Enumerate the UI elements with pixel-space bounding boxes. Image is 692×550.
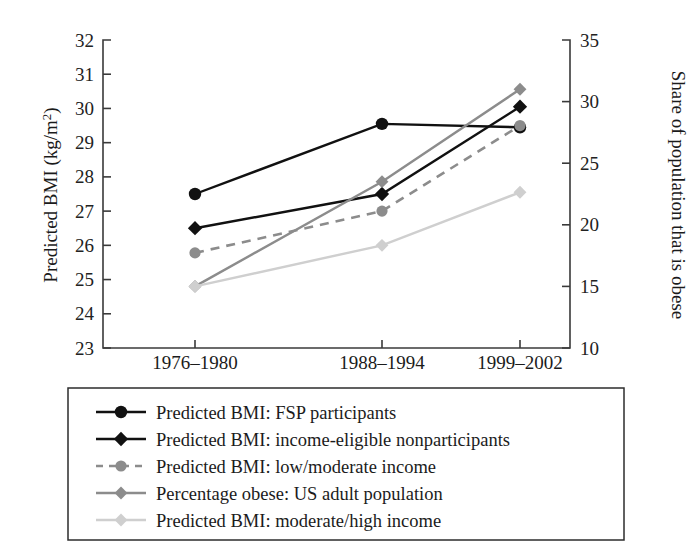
legend-marker-diamond <box>115 514 128 527</box>
legend-label: Predicted BMI: income-eligible nonpartic… <box>156 430 510 450</box>
left-axis-tick-label: 30 <box>75 98 94 119</box>
legend-label: Percentage obese: US adult population <box>156 484 443 504</box>
series-line-4 <box>195 192 520 286</box>
series-line-3 <box>195 89 520 286</box>
series-line-0 <box>195 124 520 194</box>
data-point-circle <box>514 120 525 131</box>
legend-label: Predicted BMI: low/moderate income <box>156 457 436 477</box>
left-axis-title: Predicted BMI (kg/m2) <box>39 107 62 282</box>
right-axis-tick-label: 20 <box>580 214 599 235</box>
left-axis-tick-label: 28 <box>75 166 94 187</box>
data-point-diamond <box>189 280 202 293</box>
data-point-diamond <box>513 100 527 114</box>
left-axis-tick-label: 31 <box>75 64 94 85</box>
data-point-diamond <box>188 221 202 235</box>
left-axis-line <box>103 40 111 348</box>
right-axis-tick-label: 35 <box>580 30 599 51</box>
left-axis-tick-label: 23 <box>75 338 94 359</box>
legend-marker-circle <box>115 460 126 471</box>
right-axis-tick-label: 10 <box>580 338 599 359</box>
data-point-diamond <box>514 186 527 199</box>
right-axis-line <box>562 40 570 348</box>
left-axis-tick-label: 25 <box>75 269 94 290</box>
data-point-diamond <box>376 239 389 252</box>
data-point-circle <box>189 188 201 200</box>
series-line-2 <box>195 126 520 253</box>
left-axis-tick-label: 26 <box>75 235 94 256</box>
chart-figure: 232425262728293031321015202530351976–198… <box>0 0 692 550</box>
right-axis-tick-label: 15 <box>580 276 599 297</box>
left-axis-tick-label: 29 <box>75 132 94 153</box>
right-axis-tick-label: 30 <box>580 91 599 112</box>
x-axis-category-label: 1988–1994 <box>339 352 425 373</box>
right-axis-title: Share of population that is obese <box>668 71 689 320</box>
left-axis-tick-label: 32 <box>75 30 94 51</box>
legend-marker-circle <box>115 406 127 418</box>
left-axis-tick-label: 27 <box>75 201 94 222</box>
bmi-obesity-line-chart: 232425262728293031321015202530351976–198… <box>0 0 692 550</box>
data-point-circle <box>376 206 387 217</box>
data-point-circle <box>376 118 388 130</box>
right-axis-tick-label: 25 <box>580 153 599 174</box>
data-point-diamond <box>514 83 527 96</box>
left-axis-tick-label: 24 <box>75 303 95 324</box>
legend-marker-diamond <box>114 432 128 446</box>
x-axis-category-label: 1999–2002 <box>477 352 563 373</box>
legend-marker-diamond <box>115 487 128 500</box>
data-point-diamond <box>376 175 389 188</box>
data-point-circle <box>189 247 200 258</box>
legend-label: Predicted BMI: FSP participants <box>156 403 396 423</box>
x-axis-category-label: 1976–1980 <box>152 352 238 373</box>
legend-label: Predicted BMI: moderate/high income <box>156 511 441 531</box>
data-point-diamond <box>375 187 389 201</box>
